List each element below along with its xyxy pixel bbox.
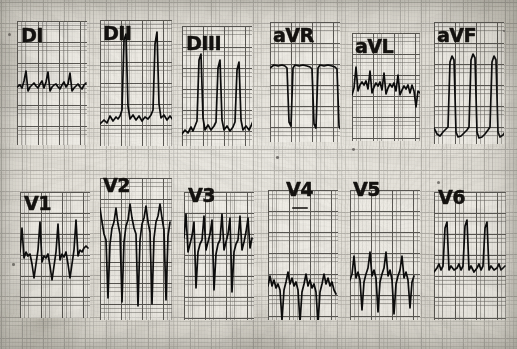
ink-speck — [276, 156, 279, 159]
lead-label-v1: V1 — [24, 194, 51, 213]
lead-label-di: DI — [21, 26, 43, 45]
stray-pen-mark — [292, 207, 308, 209]
lead-label-v6: V6 — [438, 188, 465, 207]
waveform-path-v2 — [100, 204, 170, 306]
waveform-path-avl — [352, 67, 420, 107]
waveform-path-avr — [270, 64, 340, 130]
lead-label-avr: aVR — [273, 26, 314, 45]
lead-label-v2: V2 — [103, 176, 130, 195]
lead-panel-v5 — [350, 190, 420, 320]
waveform-path-v4 — [268, 272, 336, 320]
ecg-trace-v2 — [100, 178, 172, 320]
ecg-trace-v6 — [434, 192, 506, 320]
waveform-path-v6 — [434, 220, 505, 272]
lead-label-avl: aVL — [355, 37, 393, 56]
ink-speck — [437, 181, 440, 184]
lead-panel-v3 — [184, 192, 254, 320]
lead-panel-v2 — [100, 178, 172, 320]
lead-panel-v6 — [434, 192, 506, 320]
waveform-path-avf — [434, 54, 504, 138]
waveform-path-v1 — [20, 220, 88, 280]
ecg-trace-v4 — [268, 190, 338, 320]
ecg-trace-v3 — [184, 192, 254, 320]
waveform-path-v3 — [184, 214, 252, 292]
ecg-trace-v5 — [350, 190, 420, 320]
lead-panel-v4 — [268, 190, 338, 320]
lead-label-v3: V3 — [188, 186, 215, 205]
ink-speck — [352, 148, 355, 151]
lead-label-diii: DIII — [186, 34, 221, 53]
waveform-path-diii — [182, 54, 252, 134]
waveform-path-dii — [100, 32, 172, 124]
ecg-scan-sheet: DIDIIDIIIaVRaVLaVFV1V2V3V4V5V6 — [0, 0, 517, 349]
lead-label-v4: V4 — [286, 180, 313, 199]
lead-label-dii: DII — [103, 24, 131, 43]
lead-label-avf: aVF — [437, 26, 476, 45]
ink-speck — [12, 263, 15, 266]
waveform-path-di — [17, 71, 86, 91]
lead-label-v5: V5 — [353, 180, 380, 199]
waveform-path-v5 — [350, 252, 414, 314]
